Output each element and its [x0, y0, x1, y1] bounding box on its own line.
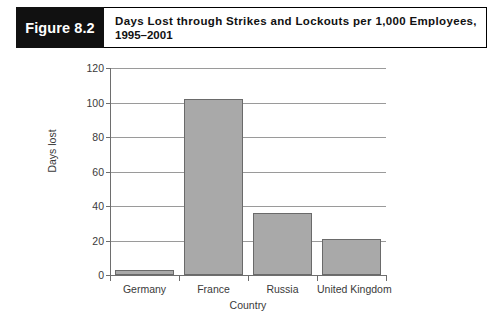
- x-axis-label-russia: Russia: [248, 283, 317, 295]
- figure-title-box: Days Lost through Strikes and Lockouts p…: [104, 7, 487, 48]
- y-axis-tick-label: 40: [68, 201, 104, 211]
- x-axis-label-france: France: [179, 283, 248, 295]
- y-axis-tick-label-text: 40: [72, 201, 104, 211]
- y-axis-tick-label-text: 80: [72, 132, 104, 142]
- y-axis-tick-label-text: 0: [72, 270, 104, 280]
- figure-title-line-1: Days Lost through Strikes and Lockouts p…: [115, 14, 477, 28]
- figure-number-tag: Figure 8.2: [16, 7, 104, 48]
- y-axis-tick-label-text: 60: [72, 167, 104, 177]
- x-axis-tick-mark: [317, 276, 318, 281]
- x-axis-tick-mark: [386, 276, 387, 281]
- x-axis-title: Country: [110, 299, 386, 311]
- y-axis-tick-label: 80: [68, 132, 104, 142]
- x-axis-label-germany: Germany: [110, 283, 179, 295]
- y-axis-tick-label: 20: [68, 236, 104, 246]
- y-axis-tick-label: 100: [68, 98, 104, 108]
- bar-germany: [115, 270, 174, 275]
- figure-title-line-2: 1995–2001: [115, 28, 477, 42]
- x-axis-tick-mark: [248, 276, 249, 281]
- y-axis-tick-label: 0: [68, 270, 104, 280]
- y-axis-title: Days lost: [46, 91, 58, 211]
- y-axis-tick-label: 120: [68, 63, 104, 73]
- bar-united-kingdom: [322, 239, 381, 275]
- x-axis-tick-mark: [110, 276, 111, 281]
- x-axis-label-united-kingdom: United Kingdom: [317, 283, 386, 295]
- y-axis-tick-label: 60: [68, 167, 104, 177]
- bar-chart: Days lost 020406080100120 GermanyFranceR…: [0, 49, 463, 317]
- y-axis-tick-label-text: 20: [72, 236, 104, 246]
- bar-russia: [253, 213, 312, 275]
- y-axis-tick-label-text: 120: [72, 63, 104, 73]
- bar-france: [184, 99, 243, 275]
- x-axis-tick-mark: [179, 276, 180, 281]
- plot-area: [110, 68, 386, 275]
- figure-header: Figure 8.2 Days Lost through Strikes and…: [16, 7, 448, 48]
- y-axis-tick-label-text: 100: [72, 98, 104, 108]
